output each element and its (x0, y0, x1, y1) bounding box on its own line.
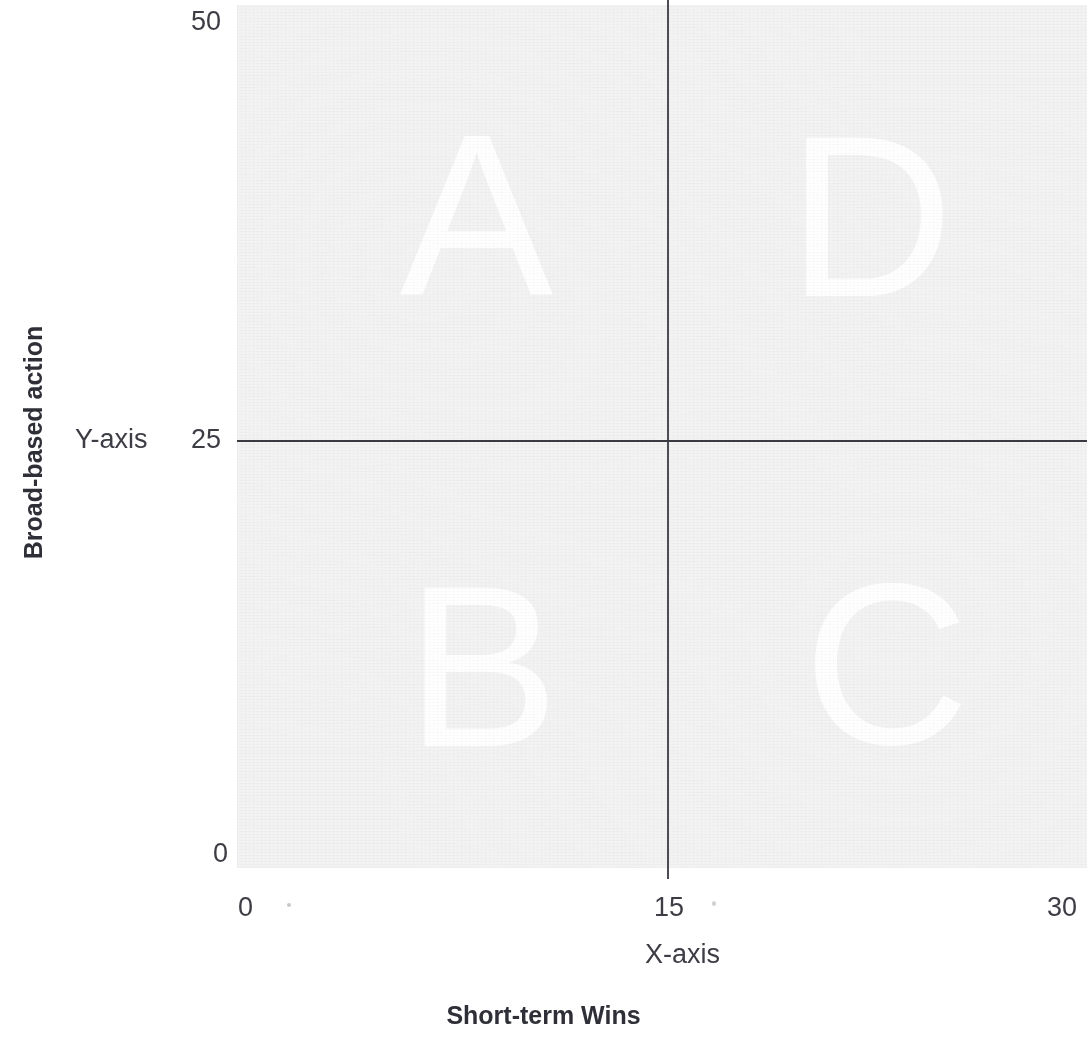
x-axis-name: X-axis (645, 941, 720, 968)
quadrant-c[interactable]: C (670, 446, 1087, 868)
quadrant-a-letter: A (400, 100, 553, 330)
y-axis-name: Y-axis (75, 426, 148, 453)
plot-area: A D B C (237, 5, 1087, 868)
y-tick-label-50: 50 (191, 8, 221, 35)
y-tick-label-0: 0 (213, 840, 228, 867)
quadrant-chart: A D B C 50 25 0 0 15 30 Y-axis X-axis Br… (0, 0, 1087, 1037)
y-tick-label-25: 25 (191, 426, 221, 453)
y-axis-title: Broad-based action (21, 293, 46, 593)
horizontal-divider-line (237, 440, 1087, 442)
quadrant-b-letter: B (406, 552, 559, 782)
quadrant-d[interactable]: D (670, 5, 1087, 441)
x-tick-label-0: 0 (238, 894, 253, 921)
quadrant-d-letter: D (787, 102, 953, 332)
scan-artifact-speck-left (287, 903, 291, 907)
x-tick-label-15: 15 (654, 894, 684, 921)
quadrant-b[interactable]: B (237, 446, 668, 868)
scan-artifact-speck-middle (712, 901, 716, 906)
x-axis-title: Short-term Wins (0, 1003, 1087, 1028)
quadrant-a[interactable]: A (237, 5, 668, 441)
quadrant-c-letter: C (803, 550, 969, 780)
x-tick-label-30: 30 (1047, 894, 1077, 921)
